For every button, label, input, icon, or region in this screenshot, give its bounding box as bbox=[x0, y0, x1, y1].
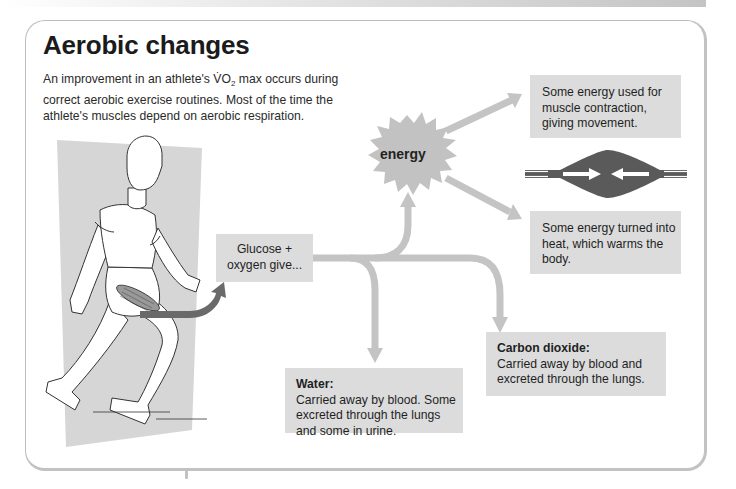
contracting-muscle-icon bbox=[525, 150, 687, 198]
water-title: Water: bbox=[296, 377, 463, 393]
carbon-dioxide-text: Carried away by blood and excreted throu… bbox=[497, 357, 645, 387]
contraction-arrow-left-shaft bbox=[621, 172, 649, 176]
water-box: Water: Carried away by blood. Some excre… bbox=[285, 368, 463, 433]
glucose-oxygen-box: Glucose + oxygen give... bbox=[216, 234, 313, 282]
heat-box: Some energy turned into heat, which warm… bbox=[530, 211, 681, 274]
energy-label: energy bbox=[380, 146, 426, 162]
heat-text: Some energy turned into heat, which warm… bbox=[542, 221, 675, 266]
glucose-oxygen-text: Glucose + oxygen give... bbox=[227, 242, 302, 272]
carbon-dioxide-box: Carbon dioxide: Carried away by blood an… bbox=[486, 332, 666, 396]
muscle-contraction-text: Some energy used for muscle contraction,… bbox=[542, 85, 662, 130]
contraction-arrow-right-shaft bbox=[563, 172, 591, 176]
water-text: Carried away by blood. Some excreted thr… bbox=[296, 393, 456, 438]
muscle-contraction-box: Some energy used for muscle contraction,… bbox=[530, 75, 681, 138]
carbon-dioxide-title: Carbon dioxide: bbox=[497, 341, 666, 357]
